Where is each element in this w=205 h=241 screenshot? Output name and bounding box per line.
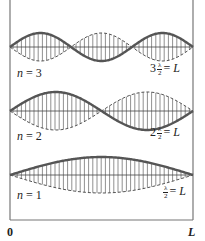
standing-wave-diagram <box>0 0 205 241</box>
mode-1-relation: λ2= L <box>162 185 186 200</box>
mode-2-relation: 2λ2= L <box>150 126 180 141</box>
wave-envelope-solid <box>10 157 193 175</box>
mode-1-label: n = 1 <box>17 189 42 201</box>
mode-3-relation: 3λ2= L <box>150 62 180 77</box>
lambda-over-2-fraction: λ2 <box>157 126 162 141</box>
axis-origin-label: 0 <box>7 225 13 240</box>
lambda-over-2-fraction: λ2 <box>163 185 168 200</box>
mode-3-label: n = 3 <box>17 67 42 79</box>
axis-length-label: L <box>188 225 195 240</box>
mode-2-label: n = 2 <box>17 130 42 142</box>
lambda-over-2-fraction: λ2 <box>157 62 162 77</box>
